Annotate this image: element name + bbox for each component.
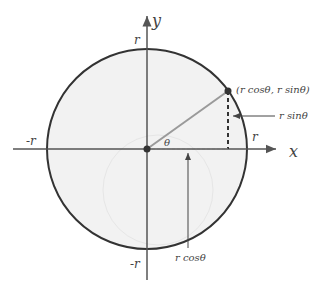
polar-circle-diagram: y x r -r -r r θ (r cosθ, r sinθ) r sinθ … — [0, 0, 313, 294]
point-label: (r cosθ, r sinθ) — [236, 84, 310, 95]
sin-label: r sinθ — [279, 110, 308, 121]
x-axis-label: x — [289, 142, 298, 161]
cos-label: r cosθ — [175, 252, 206, 263]
label-bottom-neg-r: -r — [130, 257, 141, 271]
angle-label: θ — [164, 137, 170, 148]
label-right-r: r — [252, 130, 259, 144]
y-axis-label: y — [151, 11, 162, 30]
label-left-neg-r: -r — [26, 134, 37, 148]
origin-marker — [144, 146, 151, 153]
label-top-r: r — [134, 33, 141, 47]
point-marker — [225, 88, 232, 95]
